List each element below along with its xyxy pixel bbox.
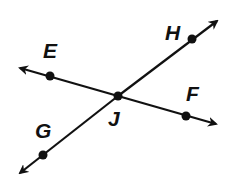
label-g: G (35, 120, 51, 141)
label-h: H (165, 22, 180, 43)
point-g (39, 151, 48, 160)
lines-svg (0, 0, 236, 178)
point-j (114, 92, 123, 101)
point-f (182, 112, 191, 121)
label-j: J (108, 108, 120, 129)
label-e: E (43, 40, 57, 61)
point-e (46, 72, 55, 81)
geometry-diagram: E H F J G (0, 0, 236, 178)
label-f: F (186, 83, 199, 104)
point-h (188, 35, 197, 44)
